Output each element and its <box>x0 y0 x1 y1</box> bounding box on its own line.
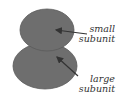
large-subunit-label: large subunit <box>79 74 115 94</box>
small-subunit-shape <box>20 9 74 51</box>
ribosome-diagram: small subunit large subunit <box>0 0 125 102</box>
large-subunit-label-line2: subunit <box>79 84 115 94</box>
small-subunit-label: small subunit <box>79 24 115 44</box>
small-subunit-label-line2: subunit <box>79 34 115 44</box>
